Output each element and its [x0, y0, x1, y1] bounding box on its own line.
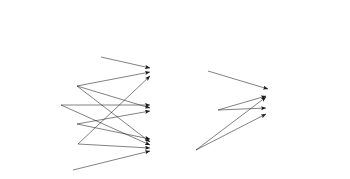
- edge-group: [61, 57, 268, 170]
- exposure-biomarker-diagram: [0, 0, 350, 179]
- arrow-inhalation-to-exhaled-breath: [196, 114, 266, 150]
- arrow-showering-to-ingestion: [77, 72, 150, 86]
- arrow-swimming-to-inhalation: [77, 124, 150, 139]
- arrow-toilet-to-inhalation: [73, 151, 150, 170]
- arrow-bathing-to-inhalation: [61, 105, 150, 145]
- arrow-showering-to-inhalation: [77, 86, 150, 142]
- arrow-dishwashing-to-inhalation: [78, 144, 150, 148]
- arrow-skin-absorption-to-exhaled-breath: [218, 108, 266, 110]
- arrow-drinking-tap-water-tap-water-based-drinks-to-ingestion: [101, 57, 150, 68]
- arrow-layer: [0, 0, 350, 179]
- arrow-ingestion-to-biomarker-serum: [208, 71, 268, 89]
- arrow-skin-absorption-to-biomarker-serum: [218, 96, 266, 110]
- arrow-swimming-to-skin-absorption: [77, 111, 150, 124]
- arrow-inhalation-to-biomarker-serum: [196, 97, 266, 150]
- arrow-showering-to-skin-absorption: [77, 86, 150, 108]
- arrow-dishwashing-to-ingestion: [78, 76, 150, 144]
